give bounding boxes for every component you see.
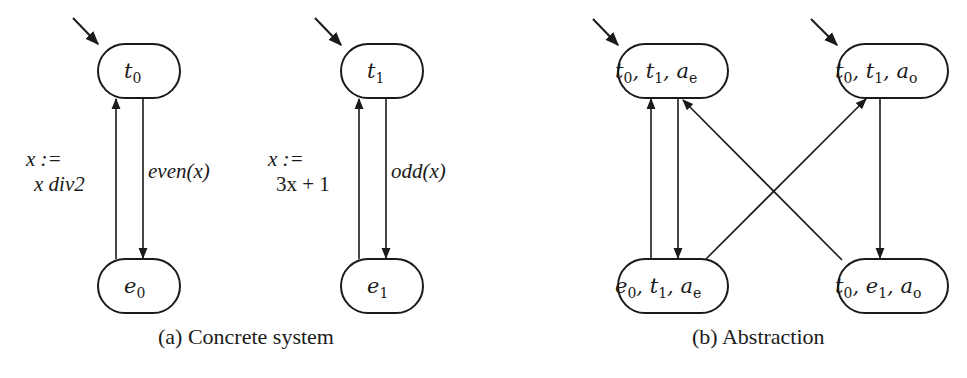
panel-b: t0, t1, ae t0, t1, ao e0, t1, ae t0, e1,… xyxy=(593,19,948,349)
transition-s3-s2 xyxy=(706,99,866,259)
label-e1-t1-line1: x := xyxy=(267,147,304,171)
label-e0-t0-line1: x := xyxy=(25,147,62,171)
state-t0-t1-ao: t0, t1, ao xyxy=(835,44,948,98)
state-t1-label: t1 xyxy=(367,59,384,86)
state-e0-label: e0 xyxy=(124,274,145,301)
label-t0-e0: even(x) xyxy=(148,159,210,183)
initial-arrow-t1 xyxy=(315,18,341,45)
initial-arrow-s1 xyxy=(593,19,618,45)
figure-canvas: t0 e0 x := x div2 even(x) t1 e1 x := 3x xyxy=(0,0,967,378)
label-e1-t1-line2: 3x + 1 xyxy=(276,172,330,196)
state-e0-t1-ae-label: e0, t1, ae xyxy=(615,274,701,301)
state-e0: e0 xyxy=(98,259,180,313)
label-e0-t0-line2: x div2 xyxy=(33,172,85,196)
state-t0-label: t0 xyxy=(124,59,141,86)
panel-a: t0 e0 x := x div2 even(x) t1 e1 x := 3x xyxy=(25,18,446,349)
state-t0-e1-ao-label: t0, e1, ao xyxy=(835,274,921,301)
state-t0-t1-ae-label: t0, t1, ae xyxy=(615,59,697,86)
initial-arrow-t0 xyxy=(73,18,98,44)
state-t0-t1-ao-label: t0, t1, ao xyxy=(835,59,917,86)
state-e1: e1 xyxy=(341,259,423,313)
state-e0-t1-ae: e0, t1, ae xyxy=(615,259,728,313)
transition-s4-s1 xyxy=(683,100,842,260)
label-t1-e1: odd(x) xyxy=(391,159,446,183)
caption-a: (a) Concrete system xyxy=(158,324,334,349)
initial-arrow-s2 xyxy=(811,19,837,45)
state-t0: t0 xyxy=(98,44,180,98)
state-t0-t1-ae: t0, t1, ae xyxy=(615,44,728,98)
state-e1-label: e1 xyxy=(367,274,388,301)
state-t0-e1-ao: t0, e1, ao xyxy=(835,259,948,313)
caption-b: (b) Abstraction xyxy=(692,324,825,349)
state-t1: t1 xyxy=(341,44,423,98)
